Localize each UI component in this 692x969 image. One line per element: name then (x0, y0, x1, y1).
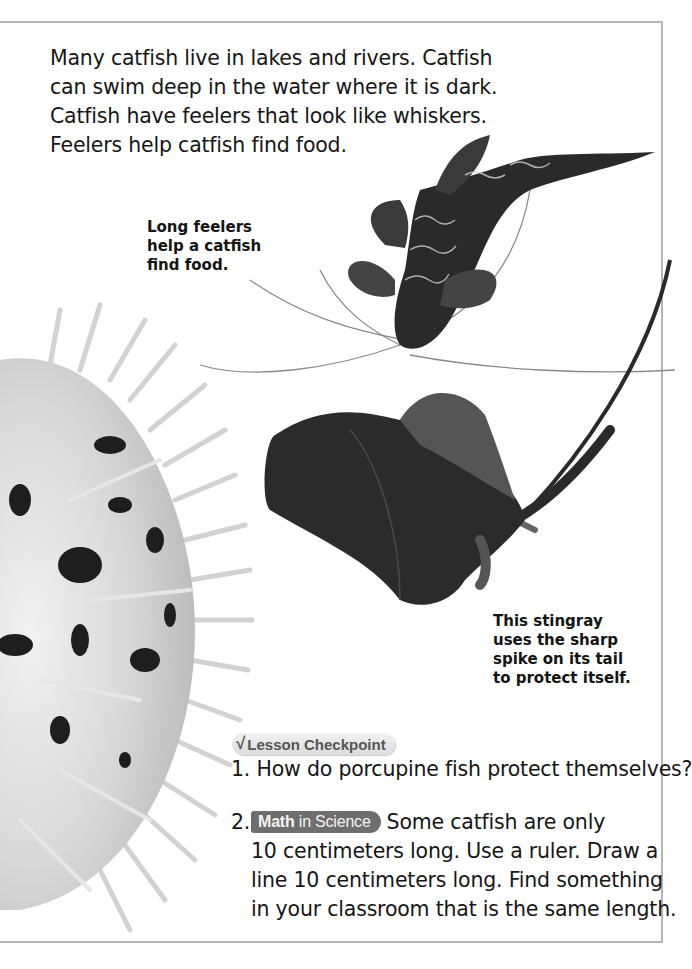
badge-rest-text: in Science (295, 813, 371, 830)
page-frame-top (0, 21, 663, 23)
catfish-caption: Long feelers help a catfish find food. (147, 218, 261, 275)
caption-line: to protect itself. (493, 669, 631, 688)
page-frame-bottom (0, 941, 663, 943)
question-number: 1. (231, 757, 250, 781)
question-text: line 10 centimeters long. Find something (251, 866, 691, 895)
caption-line: help a catfish (147, 237, 261, 256)
intro-line: Feelers help catfish find food. (50, 131, 570, 160)
intro-line: can swim deep in the water where it is d… (50, 73, 570, 102)
intro-line: Many catfish live in lakes and rivers. C… (50, 44, 570, 73)
caption-line: Long feelers (147, 218, 261, 237)
badge-bold-text: Math (258, 813, 295, 830)
checkmark-icon: √ (236, 734, 245, 754)
question-number: 2. (231, 808, 250, 837)
question-text: Some catfish are only (387, 810, 605, 834)
intro-paragraph: Many catfish live in lakes and rivers. C… (50, 44, 570, 160)
stingray-image (250, 240, 680, 610)
caption-line: spike on its tail (493, 650, 631, 669)
question-text: 10 centimeters long. Use a ruler. Draw a (251, 837, 691, 866)
intro-line: Catfish have feelers that look like whis… (50, 102, 570, 131)
question-text: How do porcupine fish protect themselves… (257, 757, 692, 781)
math-in-science-badge: Math in Science (251, 811, 381, 833)
caption-line: uses the sharp (493, 631, 631, 650)
question-text: in your classroom that is the same lengt… (251, 895, 691, 924)
question-1: 1. How do porcupine fish protect themsel… (231, 755, 692, 784)
lesson-checkpoint-title: Lesson Checkpoint (247, 736, 385, 753)
stingray-caption: This stingray uses the sharp spike on it… (493, 612, 631, 688)
caption-line: This stingray (493, 612, 631, 631)
lesson-checkpoint-badge: √ Lesson Checkpoint (232, 733, 395, 755)
caption-line: find food. (147, 256, 261, 275)
